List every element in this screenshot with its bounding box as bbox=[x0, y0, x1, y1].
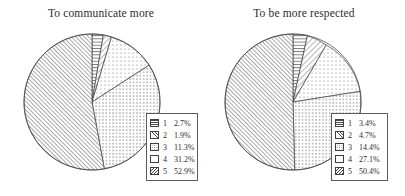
legend-item[interactable]: 2 1.9% bbox=[150, 129, 193, 141]
legend-swatch-sparse-dots-icon bbox=[150, 143, 159, 151]
legend-item[interactable]: 4 27.1% bbox=[335, 153, 383, 165]
chart-panel-be-more-respected: To be more respected bbox=[203, 0, 405, 196]
legend-item[interactable]: 5 52.9% bbox=[150, 165, 193, 177]
chart-panel-communicate-more: To communicate more bbox=[0, 0, 202, 196]
legend-item[interactable]: 3 11.3% bbox=[150, 141, 193, 153]
legend-key: 5 bbox=[348, 167, 356, 176]
legend-key: 3 bbox=[348, 143, 356, 152]
legend-swatch-sparse-dots-icon bbox=[335, 143, 344, 151]
legend-value: 11.3% bbox=[174, 143, 194, 152]
legend-swatch-diagonal-lines-icon bbox=[150, 131, 159, 139]
legend-swatch-horizontal-lines-icon bbox=[335, 119, 344, 127]
legend-item[interactable]: 1 3.4% bbox=[335, 117, 383, 129]
legend-value: 2.7% bbox=[174, 119, 191, 128]
legend-swatch-horizontal-lines-icon bbox=[150, 119, 159, 127]
legend-value: 31.2% bbox=[174, 155, 195, 164]
legend-value: 27.1% bbox=[359, 155, 380, 164]
legend-swatch-dense-hatch-icon bbox=[335, 167, 344, 175]
legend-right: 1 3.4% 2 4.7% 3 14.4% 4 27.1% 5 50.4 bbox=[331, 113, 388, 181]
legend-item[interactable]: 3 14.4% bbox=[335, 141, 383, 153]
pie-chart-figure: To communicate more bbox=[0, 0, 405, 196]
legend-value: 3.4% bbox=[359, 119, 376, 128]
legend-item[interactable]: 1 2.7% bbox=[150, 117, 193, 129]
legend-value: 52.9% bbox=[174, 167, 195, 176]
legend-swatch-diagonal-lines-icon bbox=[335, 131, 344, 139]
legend-key: 2 bbox=[348, 131, 356, 140]
legend-swatch-dots-icon bbox=[150, 155, 159, 163]
legend-left: 1 2.7% 2 1.9% 3 11.3% 4 31.2% 5 52.9 bbox=[146, 113, 198, 181]
legend-value: 14.4% bbox=[359, 143, 380, 152]
legend-swatch-dense-hatch-icon bbox=[150, 167, 159, 175]
legend-key: 4 bbox=[163, 155, 171, 164]
legend-value: 50.4% bbox=[359, 167, 380, 176]
pie-slice-5 bbox=[225, 34, 295, 170]
pie-slices-left bbox=[24, 34, 160, 170]
legend-value: 4.7% bbox=[359, 131, 376, 140]
legend-value: 1.9% bbox=[174, 131, 191, 140]
legend-key: 5 bbox=[163, 167, 171, 176]
legend-key: 1 bbox=[163, 119, 171, 128]
pie-slice-5 bbox=[24, 34, 104, 170]
legend-key: 4 bbox=[348, 155, 356, 164]
legend-key: 1 bbox=[348, 119, 356, 128]
legend-item[interactable]: 2 4.7% bbox=[335, 129, 383, 141]
legend-key: 3 bbox=[163, 143, 171, 152]
legend-key: 2 bbox=[163, 131, 171, 140]
legend-swatch-dots-icon bbox=[335, 155, 344, 163]
legend-item[interactable]: 4 31.2% bbox=[150, 153, 193, 165]
legend-item[interactable]: 5 50.4% bbox=[335, 165, 383, 177]
